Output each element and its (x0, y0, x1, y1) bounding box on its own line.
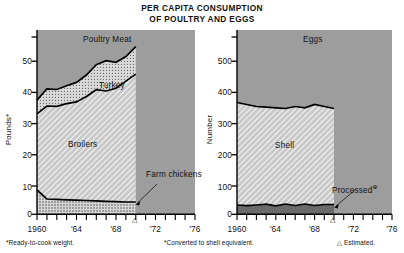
series-label-eggs: Eggs (303, 35, 322, 44)
processed-footnote-marker: ⊕ (372, 184, 377, 190)
y-ticks (232, 37, 238, 214)
footnote-estimated: △ Estimated. (337, 239, 375, 247)
series-label-poultry-meat: Poultry Meat (83, 35, 131, 44)
x-tick-label: 1960 (220, 224, 254, 234)
footnote-shell-equivalent: *Converted to shell equivalent. (164, 239, 254, 246)
x-tick-label: '76 (375, 224, 404, 234)
series-label-shell: Shell (275, 141, 294, 150)
processed-label-text: Processed (332, 186, 372, 195)
estimated-marker-eggs: △ (330, 216, 335, 224)
x-tick-label: '64 (259, 224, 293, 234)
y-ticks (32, 37, 38, 214)
series-label-processed: Processed⊕ (332, 183, 378, 195)
x-tick-label: '68 (99, 224, 133, 234)
footnote-ready-to-cook: *Ready-to-cook weight. (6, 239, 74, 246)
x-ticks (37, 214, 195, 220)
farm-chickens-label-text: Farm chickens (146, 170, 202, 179)
x-tick-label: '68 (298, 224, 332, 234)
estimated-marker-poultry: △ (132, 216, 137, 224)
series-label-broilers: Broilers (68, 140, 97, 149)
x-ticks (237, 214, 392, 220)
chart-eggs: Number 500 400 300 200 100 0 (200, 0, 404, 253)
series-label-farm-chickens: Farm chickens (146, 170, 190, 180)
x-tick-label: '72 (139, 224, 173, 234)
x-tick-label: '72 (337, 224, 371, 234)
x-tick-label: '64 (60, 224, 94, 234)
area-shell (237, 103, 334, 206)
plot-area-eggs (200, 0, 404, 235)
chart-poultry-meat: Pounds* 50 40 30 20 10 0 (0, 0, 200, 253)
x-tick-label: 1960 (20, 224, 54, 234)
series-label-turkey: Turkey (99, 81, 125, 90)
